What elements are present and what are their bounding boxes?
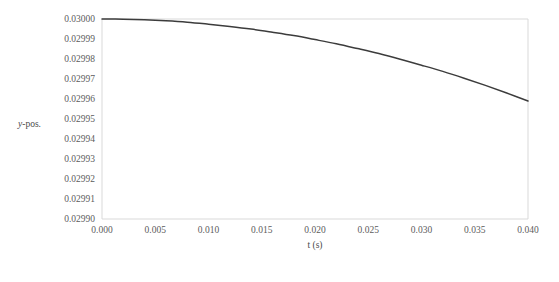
x-tick-label: 0.035: [464, 225, 486, 235]
y-tick-label: 0.02992: [64, 174, 95, 184]
x-tick-label: 0.025: [358, 225, 380, 235]
x-tick-label: 0.000: [91, 225, 113, 235]
x-tick-label: 0.010: [198, 225, 220, 235]
chart-figure: 0.029900.029910.029920.029930.029940.029…: [0, 0, 559, 282]
x-axis-tick-labels: 0.0000.0050.0100.0150.0200.0250.0300.035…: [91, 225, 539, 235]
x-axis-label: t (s): [307, 240, 322, 251]
x-tick-label: 0.040: [517, 225, 539, 235]
y-tick-label: 0.02995: [64, 114, 95, 124]
y-tick-label: 0.03000: [64, 14, 95, 24]
y-tick-label: 0.02996: [64, 94, 95, 104]
line-chart-plot: 0.029900.029910.029920.029930.029940.029…: [0, 0, 559, 282]
x-tick-label: 0.015: [251, 225, 273, 235]
y-tick-label: 0.02997: [64, 74, 95, 84]
x-tick-label: 0.020: [304, 225, 326, 235]
x-tick-label: 0.030: [411, 225, 433, 235]
y-axis-label-suffix: -pos.: [22, 119, 41, 129]
x-tick-label: 0.005: [145, 225, 167, 235]
y-tick-label: 0.02998: [64, 54, 95, 64]
y-tick-label: 0.02993: [64, 154, 95, 164]
y-tick-label: 0.02990: [64, 214, 95, 224]
y-axis-label: y-pos.: [17, 119, 41, 129]
y-tick-label: 0.02999: [64, 34, 95, 44]
y-tick-label: 0.02991: [64, 194, 95, 204]
y-tick-label: 0.02994: [64, 134, 95, 144]
